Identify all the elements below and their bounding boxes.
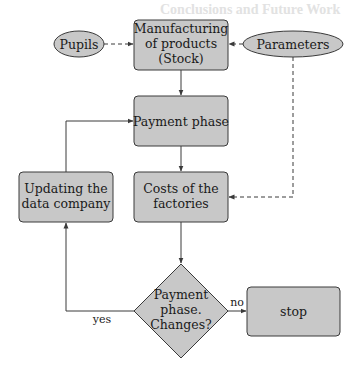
node-parameters: Parameters — [243, 31, 343, 57]
node-label-line: (Stock) — [158, 51, 203, 66]
node-costs-of-factories: Costs of the factories — [134, 172, 228, 222]
node-payment-phase: Payment phase — [133, 96, 229, 146]
node-label-line: Payment — [154, 287, 209, 302]
edge-label-no: no — [230, 296, 244, 309]
node-label: Parameters — [257, 37, 330, 52]
node-label-line: of products — [145, 36, 217, 51]
node-updating-data-company: Updating the data company — [19, 172, 113, 222]
node-label-line: phase. — [160, 302, 201, 317]
node-decision: Payment phase. Changes? — [134, 264, 228, 358]
edge-label-yes: yes — [92, 313, 112, 326]
node-label: Payment phase — [133, 114, 229, 129]
flowchart: Pupils Parameters Manufacturing of produ… — [0, 0, 362, 378]
edge-parameters-costs — [229, 57, 293, 197]
node-label-line: Costs of the — [143, 181, 219, 196]
node-label-line: factories — [153, 196, 208, 211]
node-stop: stop — [247, 287, 340, 336]
edge-decision-updating — [66, 223, 134, 311]
node-label: stop — [280, 304, 307, 319]
node-label: Pupils — [60, 37, 99, 52]
node-label-line: Changes? — [150, 317, 212, 332]
node-pupils: Pupils — [54, 31, 104, 57]
node-label-line: Updating the — [24, 181, 108, 196]
node-label-line: Manufacturing — [134, 21, 229, 36]
edge-updating-payment — [66, 121, 133, 172]
node-label-line: data company — [22, 196, 112, 211]
node-manufacturing: Manufacturing of products (Stock) — [134, 20, 229, 70]
